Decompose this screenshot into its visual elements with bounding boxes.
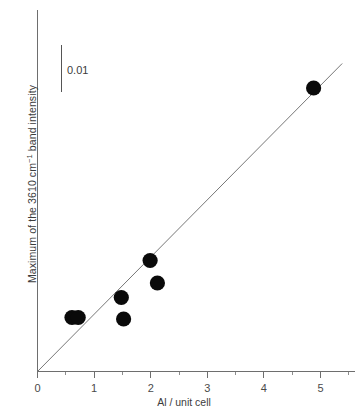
data-point-group bbox=[64, 80, 321, 326]
y-axis-title-prefix: Maximum of the 3610 cm bbox=[26, 163, 38, 283]
data-point bbox=[116, 311, 131, 326]
data-point bbox=[150, 275, 165, 290]
figure-container: 0 1 2 3 4 5 Al / unit cell 0.01 Maximum … bbox=[0, 0, 361, 413]
x-tick-label-2: 2 bbox=[148, 382, 154, 394]
scatter-plot: 0 1 2 3 4 5 Al / unit cell 0.01 bbox=[0, 0, 361, 413]
scale-bar-label: 0.01 bbox=[67, 64, 88, 76]
x-tick-label-4: 4 bbox=[261, 382, 267, 394]
data-point bbox=[306, 80, 321, 95]
y-axis-title: Maximum of the 3610 cm−1 band intensity bbox=[26, 59, 38, 309]
data-point bbox=[71, 310, 86, 325]
x-tick-label-3: 3 bbox=[204, 382, 210, 394]
y-axis-title-superscript: −1 bbox=[25, 154, 34, 163]
x-tick-label-0: 0 bbox=[34, 382, 40, 394]
data-point bbox=[143, 253, 158, 268]
x-tick-label-1: 1 bbox=[91, 382, 97, 394]
x-axis-title: Al / unit cell bbox=[157, 396, 211, 408]
y-axis-title-suffix: band intensity bbox=[26, 85, 38, 154]
trend-line bbox=[38, 64, 343, 372]
x-tick-label-5: 5 bbox=[317, 382, 323, 394]
data-point bbox=[114, 290, 129, 305]
